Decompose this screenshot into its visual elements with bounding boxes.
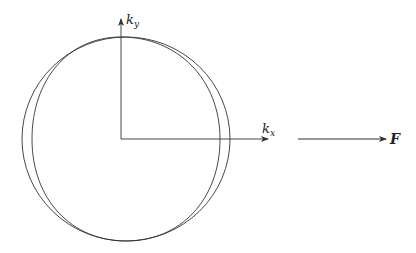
ky-label-base: k <box>126 12 134 27</box>
ky-label: ky <box>126 12 140 29</box>
fermi-surface-diagram: ky kx F <box>0 0 416 253</box>
ky-label-sub: y <box>133 19 140 29</box>
kx-label: kx <box>262 121 275 138</box>
force-label: F <box>389 131 401 147</box>
kx-label-sub: x <box>270 128 275 138</box>
kx-label-base: k <box>262 121 270 136</box>
